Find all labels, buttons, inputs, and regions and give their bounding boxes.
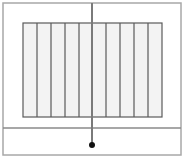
diagram-canvas [0, 0, 185, 161]
rod-end-dot [89, 142, 95, 148]
diagram-svg [0, 0, 185, 161]
